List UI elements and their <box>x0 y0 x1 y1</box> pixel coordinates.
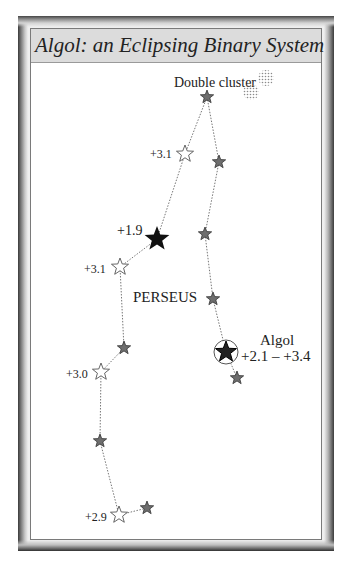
magnitude-label: +3.0 <box>66 367 88 381</box>
star-icon <box>117 341 130 354</box>
double-cluster: Double cluster <box>174 70 274 100</box>
magnitude-label: +1.9 <box>117 223 142 238</box>
constellation-line <box>100 372 101 441</box>
star-icon <box>230 371 243 384</box>
constellation-line <box>157 154 185 239</box>
constellation-line <box>185 97 207 154</box>
double-cluster-label: Double cluster <box>174 75 256 90</box>
star-icon <box>140 501 153 514</box>
constellation-chart: Double cluster PERSEUS Algol +2.1 – +3.4… <box>0 0 348 568</box>
algol-annotation: Algol +2.1 – +3.4 <box>241 332 311 364</box>
magnitude-labels: +3.1+1.9+3.1+3.0+2.9 <box>66 147 172 524</box>
star-icon <box>176 145 193 161</box>
algol-name: Algol <box>260 332 294 348</box>
magnitude-label: +3.1 <box>150 147 172 161</box>
star-icon <box>206 292 219 305</box>
star-icon <box>200 90 213 103</box>
constellation-line <box>207 97 219 162</box>
algol-magnitude: +2.1 – +3.4 <box>241 348 311 364</box>
star-icon <box>212 155 225 168</box>
magnitude-label: +3.1 <box>84 262 106 276</box>
cluster-icon <box>243 84 259 100</box>
magnitude-label: +2.9 <box>85 510 107 524</box>
star-icon <box>111 258 128 274</box>
constellation-line <box>205 162 219 234</box>
star-icon <box>110 506 127 522</box>
constellation-line <box>100 441 119 515</box>
constellation-label: PERSEUS <box>133 289 197 305</box>
cluster-icon <box>258 70 274 86</box>
constellation-line <box>205 234 213 299</box>
star-icon <box>145 226 170 250</box>
star-icon <box>93 434 106 447</box>
constellation-line <box>120 267 124 348</box>
